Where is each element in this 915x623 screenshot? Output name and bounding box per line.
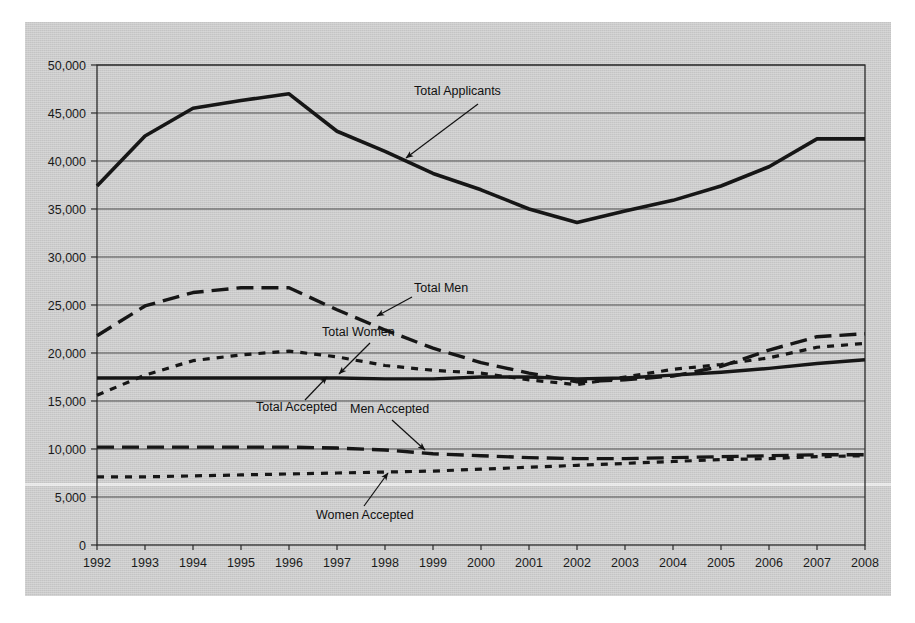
y-axis-tick-label: 40,000 [48, 155, 86, 169]
y-axis-tick-label: 45,000 [48, 107, 86, 121]
gridlines [97, 65, 865, 497]
x-axis-tick-label: 1994 [179, 556, 207, 570]
x-axis-tick-label: 1993 [131, 556, 159, 570]
annotation-label-men-accepted: Men Accepted [350, 402, 429, 416]
y-axis-tick-label: 15,000 [48, 395, 86, 409]
x-axis-tick-label: 2006 [755, 556, 783, 570]
x-axis-tick-label: 2008 [851, 556, 879, 570]
x-axis-tick-marks [97, 545, 865, 550]
annotation-arrow-total-accepted [305, 377, 327, 400]
series-line-women-accepted [97, 456, 865, 477]
y-axis-tick-label: 5,000 [55, 491, 86, 505]
x-axis-tick-label: 2004 [659, 556, 687, 570]
y-axis-tick-label: 25,000 [48, 299, 86, 313]
x-axis-tick-label: 2002 [563, 556, 591, 570]
x-axis-tick-label: 2001 [515, 556, 543, 570]
chart-figure: 05,00010,00015,00020,00025,00030,00035,0… [0, 0, 915, 623]
x-axis-tick-label: 1998 [371, 556, 399, 570]
y-axis-tick-label: 20,000 [48, 347, 86, 361]
series-line-total-men [97, 288, 865, 382]
y-axis-tick-label: 35,000 [48, 203, 86, 217]
data-series [97, 94, 865, 477]
y-axis-tick-label: 30,000 [48, 251, 86, 265]
y-axis-tick-label: 50,000 [48, 59, 86, 73]
x-axis-tick-label: 1997 [323, 556, 351, 570]
annotation-arrow-men-accepted [392, 420, 425, 450]
x-axis-tick-label: 1995 [227, 556, 255, 570]
x-axis-tick-label: 1992 [83, 556, 111, 570]
annotation-label-total-women: Total Women [322, 325, 395, 339]
y-axis-tick-label: 10,000 [48, 443, 86, 457]
x-axis-tick-label: 1999 [419, 556, 447, 570]
annotation-label-total-men: Total Men [414, 281, 468, 295]
annotation-label-total-accepted: Total Accepted [256, 400, 337, 414]
y-axis-tick-labels: 05,00010,00015,00020,00025,00030,00035,0… [48, 59, 86, 553]
annotation-arrow-total-applicants [406, 104, 478, 158]
annotation-label-total-applicants: Total Applicants [414, 84, 501, 98]
line-chart: 05,00010,00015,00020,00025,00030,00035,0… [0, 0, 915, 623]
x-axis-tick-label: 2007 [803, 556, 831, 570]
x-axis-tick-label: 2005 [707, 556, 735, 570]
annotation-arrow-women-accepted [364, 473, 388, 506]
y-axis-tick-label: 0 [79, 539, 86, 553]
x-axis-tick-label: 2000 [467, 556, 495, 570]
x-axis-tick-label: 2003 [611, 556, 639, 570]
annotation-arrow-total-men [377, 297, 412, 316]
x-axis-tick-labels: 1992199319941995199619971998199920002001… [83, 556, 879, 570]
annotation-label-women-accepted: Women Accepted [316, 508, 414, 522]
x-axis-tick-label: 1996 [275, 556, 303, 570]
y-axis-tick-marks [91, 65, 97, 545]
